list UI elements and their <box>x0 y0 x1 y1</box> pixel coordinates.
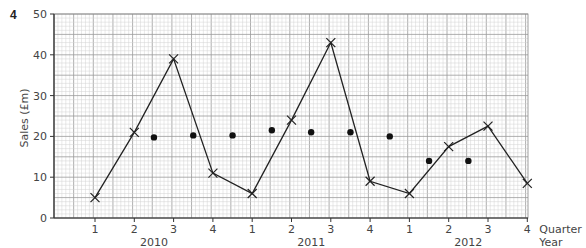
x-tick-quarter: 2 <box>288 223 295 236</box>
y-tick-label: 20 <box>33 130 47 143</box>
data-point-cross <box>484 122 493 131</box>
moving-average-dot <box>151 134 157 140</box>
moving-average-dot <box>387 133 393 139</box>
moving-average-dot <box>269 127 275 133</box>
x-axis-label-year: Year <box>538 236 563 248</box>
y-tick-label: 10 <box>33 171 47 184</box>
x-tick-quarter: 3 <box>327 223 334 236</box>
x-tick-quarter: 1 <box>406 223 413 236</box>
x-tick-quarter: 4 <box>367 223 374 236</box>
x-axis-label-quarter: Quarter <box>539 223 582 236</box>
x-tick-year: 2012 <box>454 236 482 248</box>
x-tick-quarter: 3 <box>170 223 177 236</box>
y-axis-label: Sales (£m) <box>18 88 31 147</box>
y-tick-label: 50 <box>33 8 47 21</box>
moving-average-dot <box>347 129 353 135</box>
grid <box>54 14 528 218</box>
moving-average-dot <box>465 158 471 164</box>
x-tick-quarter: 2 <box>131 223 138 236</box>
x-tick-quarter: 1 <box>92 223 99 236</box>
data-point-cross <box>444 142 453 151</box>
x-tick-quarter: 3 <box>485 223 492 236</box>
moving-average-dot <box>426 158 432 164</box>
y-tick-label: 40 <box>33 49 47 62</box>
sales-line-chart: 01020304050Sales (£m)1234123412342010201… <box>0 0 586 248</box>
x-tick-quarter: 1 <box>249 223 256 236</box>
moving-average-dot <box>229 132 235 138</box>
x-tick-quarter: 4 <box>524 223 531 236</box>
data-point-cross <box>523 179 532 188</box>
moving-average-dot <box>190 132 196 138</box>
x-tick-quarter: 4 <box>209 223 216 236</box>
moving-average-dot <box>308 129 314 135</box>
x-tick-quarter: 2 <box>445 223 452 236</box>
y-tick-label: 30 <box>33 90 47 103</box>
x-tick-year: 2010 <box>140 236 168 248</box>
y-tick-label: 0 <box>40 212 47 225</box>
x-tick-year: 2011 <box>297 236 325 248</box>
